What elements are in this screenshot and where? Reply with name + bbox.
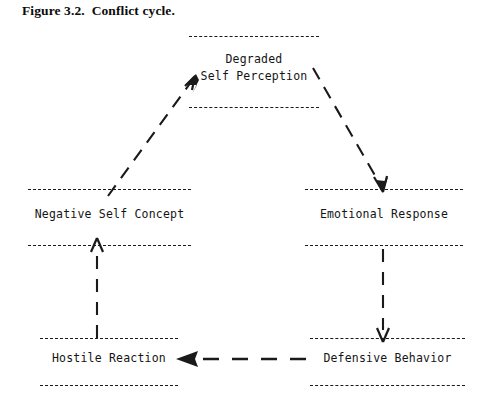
- node-label-hostile-reaction: Hostile Reaction: [40, 350, 178, 367]
- node-rule-top: [305, 189, 463, 190]
- node-rule-bottom: [40, 385, 178, 386]
- edge-degraded-to-emotional: [313, 68, 388, 193]
- edge-negative-to-degraded: [108, 74, 199, 196]
- figure-container: Figure 3.2. Conflict cycle. DegradedSelf…: [0, 0, 483, 410]
- figure-caption: Figure 3.2. Conflict cycle.: [22, 3, 175, 19]
- node-label-defensive-behavior: Defensive Behavior: [310, 350, 465, 367]
- node-rule-top: [40, 338, 178, 339]
- node-degraded-self-perception: DegradedSelf Perception: [189, 36, 319, 108]
- edge-defensive-to-hostile: [176, 351, 306, 367]
- edge-line: [313, 68, 381, 186]
- node-hostile-reaction: Hostile Reaction: [40, 338, 178, 386]
- edge-emotional-to-defensive: [377, 249, 389, 342]
- node-negative-self-concept: Negative Self Concept: [28, 189, 191, 246]
- node-rule-top: [28, 189, 191, 190]
- node-label-degraded-self-perception: DegradedSelf Perception: [189, 51, 319, 85]
- node-label-emotional-response: Emotional Response: [305, 206, 463, 223]
- node-label-negative-self-concept: Negative Self Concept: [28, 206, 191, 223]
- node-rule-top: [189, 36, 319, 37]
- node-defensive-behavior: Defensive Behavior: [310, 338, 465, 386]
- node-rule-bottom: [28, 245, 191, 246]
- node-rule-top: [310, 338, 465, 339]
- node-label-line1: Degraded: [226, 52, 283, 66]
- node-rule-bottom: [189, 107, 319, 108]
- node-emotional-response: Emotional Response: [305, 189, 463, 246]
- node-rule-bottom: [310, 385, 465, 386]
- node-label-line2: Self Perception: [189, 68, 319, 85]
- arrowhead-left: [176, 351, 198, 367]
- node-rule-bottom: [305, 245, 463, 246]
- edge-line: [108, 82, 191, 196]
- edge-hostile-to-negative: [91, 238, 103, 338]
